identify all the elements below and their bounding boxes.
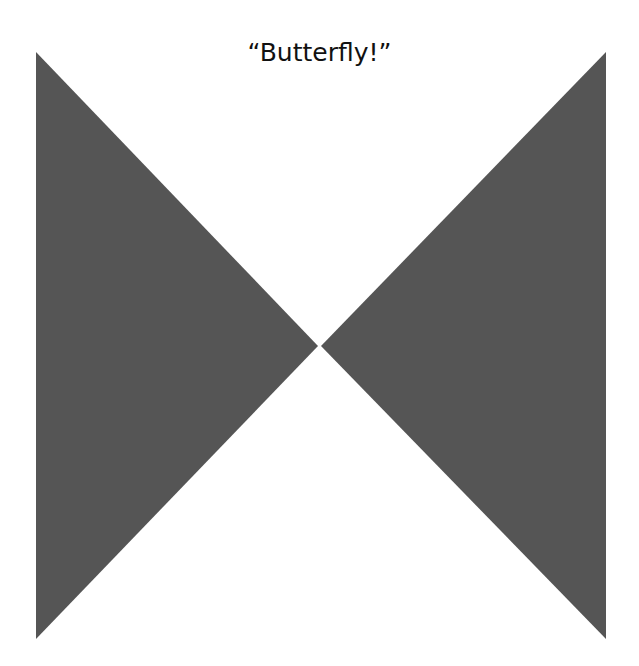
right-triangle (321, 52, 606, 639)
left-triangle (36, 52, 318, 639)
butterfly-figure (0, 0, 639, 666)
